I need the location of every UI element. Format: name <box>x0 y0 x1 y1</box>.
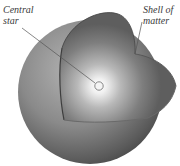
central-star-label: Central star <box>3 4 34 26</box>
label-line: Central <box>3 4 34 15</box>
central-star <box>95 82 103 90</box>
cutaway-interior <box>60 13 176 123</box>
label-line: matter <box>143 15 173 26</box>
label-line: star <box>3 15 34 26</box>
shell-label: Shell of matter <box>143 4 173 26</box>
label-line: Shell of <box>143 4 173 15</box>
